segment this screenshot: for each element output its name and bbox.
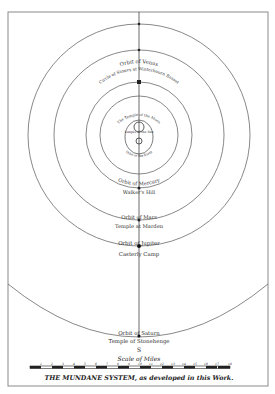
south-marker: S <box>137 346 141 353</box>
svg-text:13: 13 <box>171 362 175 366</box>
svg-text:11: 11 <box>149 362 153 366</box>
svg-text:10: 10 <box>138 362 142 366</box>
svg-text:5: 5 <box>84 362 86 366</box>
svg-text:4: 4 <box>72 362 75 366</box>
mars-orbit-label: Orbit of Mars <box>121 214 157 220</box>
svg-text:3: 3 <box>62 362 64 366</box>
svg-text:9: 9 <box>128 362 130 366</box>
svg-text:17: 17 <box>215 362 219 366</box>
plate-title: THE MUNDANE SYSTEM, as developed in this… <box>44 374 233 382</box>
mars-site-label: Temple at Marden <box>115 223 164 230</box>
svg-text:6: 6 <box>95 362 97 366</box>
jupiter-orbit-label: Orbit of Jupiter <box>118 240 160 247</box>
svg-text:12: 12 <box>160 362 164 366</box>
svg-text:8: 8 <box>117 362 119 366</box>
node-venus <box>137 80 141 84</box>
node-outer <box>138 23 141 26</box>
svg-text:15: 15 <box>193 362 197 366</box>
scale-ticks: 1 2 3 4 5 6 7 8 9 10 11 12 13 14 15 16 1… <box>40 362 232 366</box>
svg-text:14: 14 <box>182 362 186 366</box>
scale-bar <box>30 366 230 369</box>
saturn-site-label: Temple of Stonehenge <box>108 338 169 345</box>
svg-text:7: 7 <box>106 362 108 366</box>
jupiter-site-label: Casterly Camp <box>119 251 160 258</box>
svg-text:18: 18 <box>228 362 232 366</box>
mercury-site-label: Walker's Hill <box>123 189 156 195</box>
saturn-orbit-label: Orbit of Saturn <box>118 330 160 336</box>
mundane-system-plate: Orbit of Venus Circle of Stones at Winte… <box>0 0 275 394</box>
sun-temple-label: Temple of the Sun <box>124 130 153 134</box>
svg-text:1: 1 <box>40 362 42 366</box>
node-second <box>138 49 141 52</box>
svg-text:16: 16 <box>204 362 208 366</box>
svg-text:2: 2 <box>50 362 53 366</box>
